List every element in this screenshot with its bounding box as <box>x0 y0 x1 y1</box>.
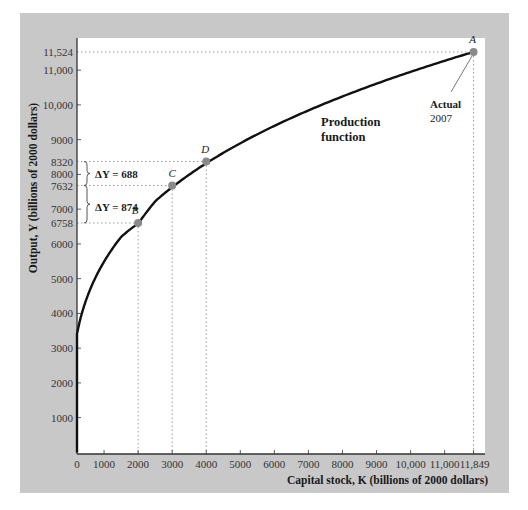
x-tick-label: 4000 <box>195 458 218 470</box>
production-function-chart: 010002000300040005000600070008000900010,… <box>0 0 528 510</box>
x-tick-label: 9000 <box>366 458 389 470</box>
point-B-marker <box>134 219 142 227</box>
y-tick-label: 4000 <box>51 307 74 319</box>
chart-canvas: 010002000300040005000600070008000900010,… <box>0 0 528 510</box>
y-tick-label: 8320 <box>51 156 74 168</box>
point-C-label: C <box>169 167 177 179</box>
delta-lower-label: ΔY = 874 <box>95 201 138 213</box>
y-tick-label: 11,524 <box>43 46 73 58</box>
x-tick-label: 2000 <box>127 458 150 470</box>
y-tick-label: 6000 <box>51 238 74 250</box>
x-tick-label: 11,849 <box>460 458 490 470</box>
x-tick-label: 0 <box>74 458 80 470</box>
point-A-marker <box>470 48 478 56</box>
y-tick-label: 6758 <box>51 217 74 229</box>
y-tick-label: 10,000 <box>43 99 74 111</box>
x-tick-label: 11,000 <box>430 458 460 470</box>
x-axis-title: Capital stock, K (billions of 2000 dolla… <box>287 474 488 487</box>
point-A-label: A <box>468 33 476 45</box>
y-tick-label: 11,000 <box>43 64 73 76</box>
x-tick-label: 3000 <box>161 458 184 470</box>
x-tick-label: 5000 <box>229 458 252 470</box>
y-tick-label: 2000 <box>51 377 74 389</box>
y-tick-label: 5000 <box>51 273 74 285</box>
y-axis-title: Output, Y (billions of 2000 dollars) <box>27 103 40 274</box>
x-tick-label: 7000 <box>297 458 320 470</box>
curve-label-line1: Production <box>321 115 381 129</box>
point-D-label: D <box>200 143 209 155</box>
x-tick-label: 10,000 <box>395 458 426 470</box>
y-tick-label: 3000 <box>51 342 74 354</box>
y-tick-label: 8000 <box>51 168 74 180</box>
callout-actual: Actual <box>430 98 461 110</box>
x-tick-label: 6000 <box>263 458 286 470</box>
y-tick-label: 7632 <box>51 180 73 192</box>
y-tick-label: 1000 <box>51 412 74 424</box>
point-C-marker <box>168 182 176 190</box>
curve-label-line2: function <box>321 130 366 144</box>
x-tick-label: 8000 <box>331 458 354 470</box>
point-D-marker <box>202 158 210 166</box>
y-tick-label: 7000 <box>51 203 74 215</box>
delta-upper-label: ΔY = 688 <box>95 168 138 180</box>
y-tick-label: 9000 <box>51 134 74 146</box>
x-tick-label: 1000 <box>93 458 116 470</box>
callout-year: 2007 <box>430 112 453 124</box>
